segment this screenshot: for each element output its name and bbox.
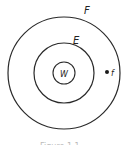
point-f-dot <box>105 70 109 74</box>
concentric-circles-diagram: F E W f Figure 1.1 <box>0 0 129 145</box>
label-f: f <box>111 69 115 78</box>
figure-caption: Figure 1.1 <box>40 142 80 145</box>
label-F: F <box>84 5 90 16</box>
label-E: E <box>73 35 80 46</box>
label-W: W <box>60 70 69 79</box>
